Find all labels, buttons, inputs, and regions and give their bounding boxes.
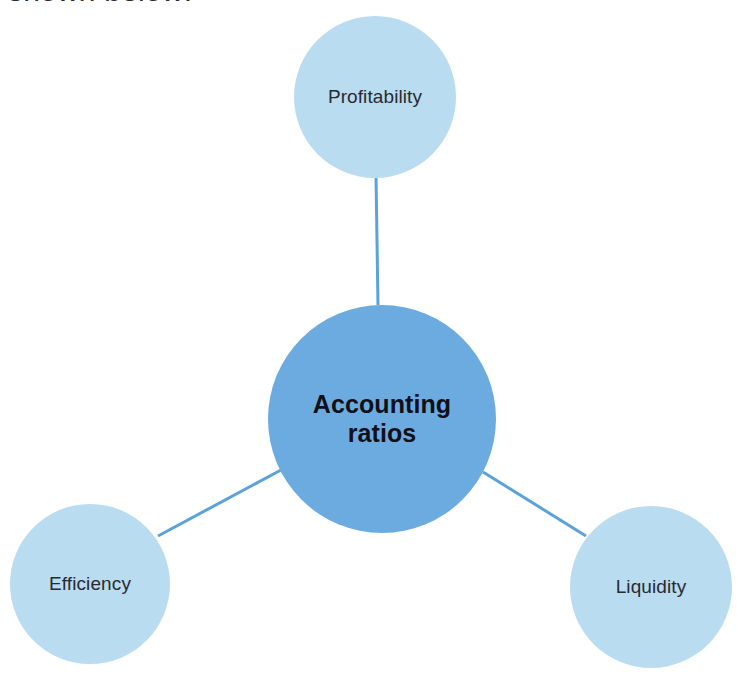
- node-liquidity-label: Liquidity: [616, 576, 687, 598]
- node-efficiency[interactable]: Efficiency: [10, 504, 170, 664]
- node-profitability[interactable]: Profitability: [294, 16, 456, 178]
- node-liquidity[interactable]: Liquidity: [570, 506, 732, 668]
- node-profitability-label: Profitability: [328, 86, 422, 108]
- node-accounting-ratios[interactable]: Accounting ratios: [268, 305, 496, 533]
- node-efficiency-label: Efficiency: [49, 573, 131, 595]
- diagram-canvas: shown below: Profitability Accounting ra…: [0, 0, 743, 690]
- connector-hub-to-profitability: [376, 176, 378, 305]
- connector-hub-to-liquidity: [483, 472, 586, 536]
- connector-hub-to-efficiency: [158, 470, 281, 536]
- node-accounting-ratios-label: Accounting ratios: [313, 390, 452, 449]
